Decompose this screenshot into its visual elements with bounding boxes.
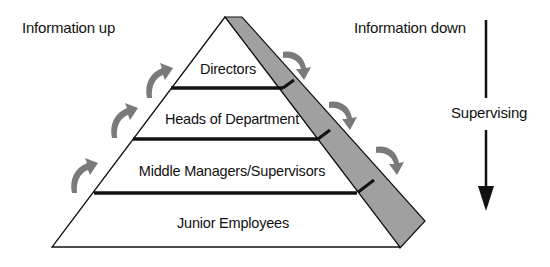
curved-up-arrow-icon bbox=[111, 103, 138, 138]
hierarchy-pyramid-diagram: Information up Information down Supervis… bbox=[0, 0, 550, 267]
tier-label-middle-managers: Middle Managers/Supervisors bbox=[139, 162, 325, 180]
tier-label-heads-of-department: Heads of Department bbox=[165, 110, 299, 128]
information-up-label: Information up bbox=[22, 19, 115, 37]
pyramid-outline bbox=[52, 17, 400, 247]
supervising-label: Supervising bbox=[451, 104, 527, 122]
down-arrowhead-icon bbox=[478, 186, 494, 211]
information-down-label: Information down bbox=[354, 19, 466, 37]
tier-label-junior-employees: Junior Employees bbox=[177, 214, 289, 232]
tier-label-directors: Directors bbox=[200, 60, 256, 78]
curved-up-arrow-icon bbox=[71, 158, 98, 193]
